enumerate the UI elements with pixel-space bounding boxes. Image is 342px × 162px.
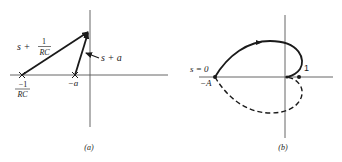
panel-a-caption: (a): [84, 143, 94, 152]
neg-a-label: −A: [200, 78, 212, 88]
pole-rc-label-den: RC: [16, 90, 28, 99]
nyquist-locus-upper: [215, 41, 302, 77]
pole-a-label: −a: [68, 78, 79, 88]
origin-label: s = 0: [190, 64, 209, 74]
vector-long-label-num: 1: [42, 37, 46, 46]
vector-long-label-prefix: s +: [17, 41, 30, 52]
vector-short-label-pointer: [86, 53, 99, 58]
point-neg-a-icon: [213, 75, 217, 79]
nyquist-locus-lower: [215, 77, 302, 113]
vector-long-label-den: RC: [38, 48, 50, 57]
vector-short-label: s + a: [101, 52, 122, 63]
panel-b-caption: (b): [278, 143, 288, 152]
pole-rc-label-num: −1: [19, 80, 28, 89]
figure: s + 1 RC s + a −1 RC −a (a) s = 0 −A: [0, 0, 342, 162]
point-origin-end-icon: [285, 75, 288, 78]
direction-arrow-icon: [256, 40, 262, 45]
panel-b: s = 0 −A 1 (b): [190, 15, 333, 152]
one-label: 1: [304, 63, 309, 73]
vector-s-plus-1-over-rc: [22, 32, 88, 75]
panel-a: s + 1 RC s + a −1 RC −a (a): [10, 10, 168, 152]
point-one-icon: [297, 75, 301, 79]
